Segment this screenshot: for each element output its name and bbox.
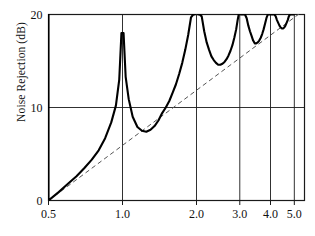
y-axis-tick-label: 10 [31,101,43,115]
series-comb-response-line [49,1,295,201]
chart-container: Noise Rejection (dB) 0.51.02.03.04.05.0 … [0,0,315,236]
x-axis-tick-label: 5.0 [287,207,302,221]
y-axis-tick-labels: 01020 [31,8,43,208]
x-axis-tick-labels: 0.51.02.03.04.05.0 [41,207,302,221]
x-axis-tick-label: 3.0 [232,207,247,221]
grid-lines [49,15,305,201]
x-axis-tick-label: 2.0 [189,207,204,221]
x-axis-tick-marks [49,201,295,206]
plot-area: 0.51.02.03.04.05.0 01020 [0,0,315,236]
x-axis-tick-label: 4.0 [263,207,278,221]
y-axis-tick-label: 0 [37,194,43,208]
series-asymptote-line [49,10,305,201]
x-axis-tick-label: 1.0 [115,207,130,221]
x-axis-tick-label: 0.5 [41,207,56,221]
y-axis-tick-label: 20 [31,8,43,22]
